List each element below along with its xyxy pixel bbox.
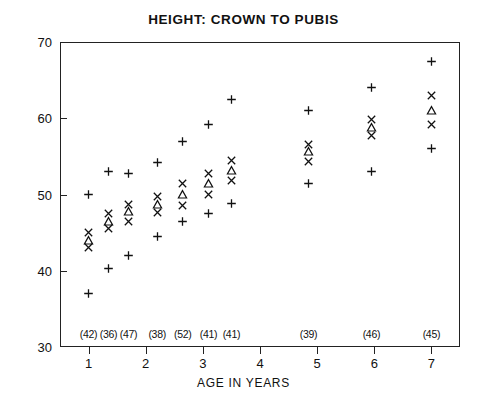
x-tick-mark <box>89 347 90 354</box>
y-tick-label: 30 <box>12 340 52 355</box>
x-tick-mark <box>203 347 204 354</box>
x-tick-mark <box>374 347 375 354</box>
y-tick-label: 60 <box>12 111 52 126</box>
y-tick-label: 70 <box>12 35 52 50</box>
sample-size-label: (46) <box>348 328 394 340</box>
sample-size-label: (41) <box>208 328 254 340</box>
sample-size-label: (39) <box>286 328 332 340</box>
x-tick-mark <box>260 347 261 354</box>
y-tick-mark <box>60 118 67 119</box>
plot-area <box>60 42 460 347</box>
x-tick-label: 7 <box>411 356 451 371</box>
x-tick-label: 3 <box>183 356 223 371</box>
y-tick-label: 50 <box>12 187 52 202</box>
chart-title: HEIGHT: CROWN TO PUBIS <box>0 12 487 27</box>
x-tick-label: 2 <box>126 356 166 371</box>
x-tick-mark <box>146 347 147 354</box>
x-tick-label: 5 <box>297 356 337 371</box>
y-tick-mark <box>60 271 67 272</box>
x-tick-label: 1 <box>69 356 109 371</box>
y-tick-label: 40 <box>12 263 52 278</box>
sample-size-label: (45) <box>408 328 454 340</box>
chart-figure: HEIGHT: CROWN TO PUBIS 3040506070 123456… <box>0 0 487 403</box>
x-axis-title: AGE IN YEARS <box>0 376 487 390</box>
x-tick-mark <box>431 347 432 354</box>
x-tick-label: 4 <box>240 356 280 371</box>
y-tick-mark <box>60 195 67 196</box>
x-tick-mark <box>317 347 318 354</box>
x-tick-label: 6 <box>354 356 394 371</box>
